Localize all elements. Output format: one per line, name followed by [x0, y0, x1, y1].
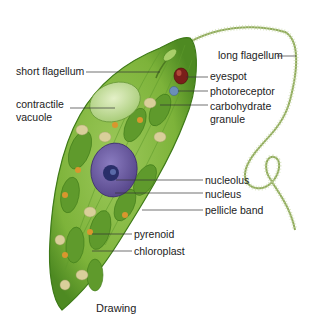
label-nucleolus: nucleolus — [205, 174, 249, 187]
label-eyespot: eyespot — [210, 70, 247, 83]
label-contractile-vacuole-line2: vacuole — [16, 111, 52, 124]
eyespot — [174, 68, 188, 84]
label-nucleus: nucleus — [205, 188, 241, 201]
label-long-flagellum: long flagellum — [218, 49, 283, 62]
label-carbohydrate-granule-line1: carbohydrate — [210, 100, 271, 113]
label-contractile-vacuole-line1: contractile — [16, 98, 64, 111]
figure-caption: Drawing — [96, 302, 136, 314]
label-photoreceptor: photoreceptor — [210, 85, 275, 98]
label-chloroplast: chloroplast — [134, 245, 185, 258]
label-short-flagellum: short flagellum — [16, 65, 84, 78]
label-pyrenoid: pyrenoid — [134, 228, 174, 241]
photoreceptor — [170, 87, 179, 96]
euglena-diagram: short flagellum contractile vacuole long… — [0, 0, 321, 329]
label-pellicle-band: pellicle band — [205, 204, 263, 217]
label-carbohydrate-granule-line2: granule — [210, 113, 245, 126]
